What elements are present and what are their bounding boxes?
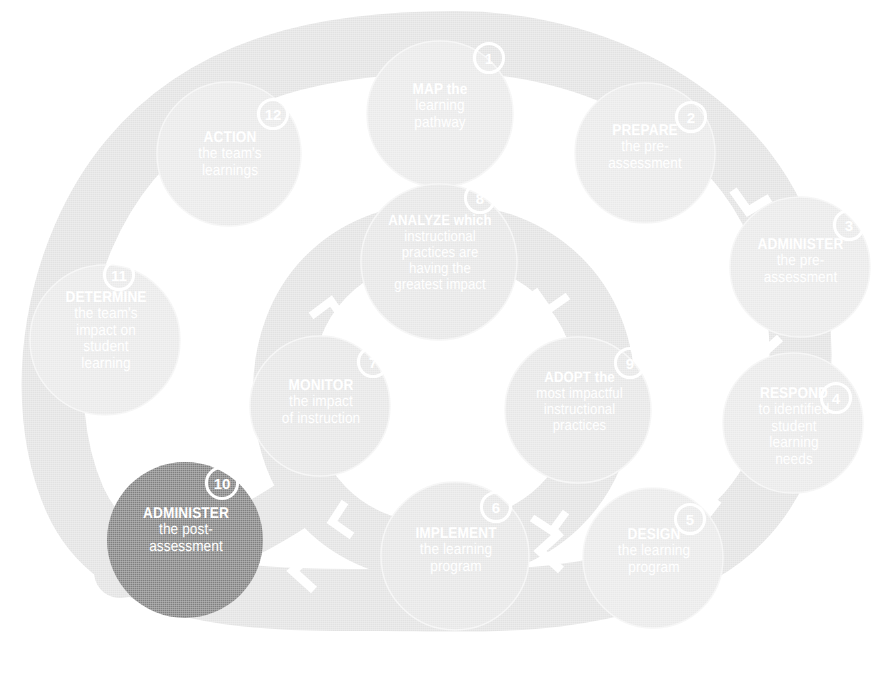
node-badge-12: 12 bbox=[258, 99, 288, 129]
node-badge-5: 5 bbox=[675, 504, 705, 534]
chevron-10-to-11 bbox=[110, 430, 130, 466]
node-badge-3: 3 bbox=[834, 210, 864, 240]
chevron-11-to-12 bbox=[133, 222, 167, 243]
chevron-1-to-2 bbox=[535, 112, 557, 150]
node-badge-4: 4 bbox=[821, 383, 851, 413]
node-badge-11: 11 bbox=[104, 260, 134, 290]
node-circle-8[interactable] bbox=[361, 184, 517, 340]
node-circle-10[interactable] bbox=[107, 462, 263, 618]
diagram-canvas: MAP the learning pathway 1 PREPARE the p… bbox=[0, 0, 885, 674]
node-circle-11[interactable] bbox=[30, 265, 180, 415]
node-badge-2: 2 bbox=[676, 102, 706, 132]
node-badge-8: 8 bbox=[465, 183, 495, 213]
node-badge-6: 6 bbox=[481, 492, 511, 522]
node-badge-9: 9 bbox=[615, 348, 645, 378]
node-badge-7: 7 bbox=[358, 347, 388, 377]
cycle-diagram-svg bbox=[0, 0, 885, 674]
chevron-12-to-1 bbox=[322, 112, 344, 150]
node-badge-1: 1 bbox=[474, 43, 504, 73]
node-badge-10: 10 bbox=[206, 467, 238, 499]
node-circle-4[interactable] bbox=[723, 353, 863, 493]
